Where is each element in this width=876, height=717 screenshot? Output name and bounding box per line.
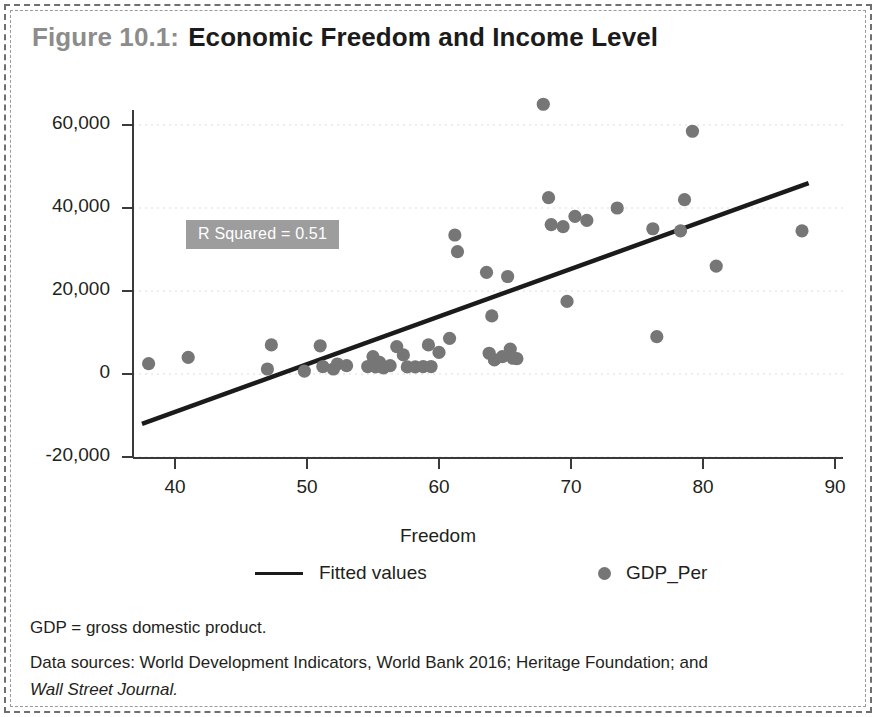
- legend-item-fitted-values: Fitted values: [255, 562, 427, 584]
- page-title: Figure 10.1:Economic Freedom and Income …: [32, 22, 658, 53]
- scatter-point: [314, 339, 327, 352]
- scatter-point: [265, 338, 278, 351]
- r-squared-annotation: R Squared = 0.51: [186, 220, 339, 249]
- x-tick-label: 50: [277, 476, 337, 498]
- axis-ticks: [122, 125, 835, 469]
- y-tick-label: -20,000: [5, 444, 110, 466]
- gridlines: [133, 125, 843, 457]
- scatter-point: [678, 193, 691, 206]
- scatter-point: [424, 360, 437, 373]
- scatter-point: [710, 260, 723, 273]
- scatter-point: [674, 224, 687, 237]
- scatter-point: [556, 220, 569, 233]
- legend-label-fitted-values: Fitted values: [319, 562, 427, 584]
- scatter-point: [432, 346, 445, 359]
- scatter-point: [510, 352, 523, 365]
- scatter-point: [545, 218, 558, 231]
- figure-name: Economic Freedom and Income Level: [188, 22, 658, 52]
- scatter-point: [451, 245, 464, 258]
- x-tick-label: 80: [673, 476, 733, 498]
- scatter-point: [384, 359, 397, 372]
- x-tick-label: 60: [409, 476, 469, 498]
- legend-item-gdp-per: GDP_Per: [598, 562, 707, 584]
- y-tick-label: 0: [5, 361, 110, 383]
- scatter-point: [611, 201, 624, 214]
- scatter-chart: -20,000020,00040,00060,000 405060708090 …: [0, 70, 876, 540]
- scatter-point: [480, 266, 493, 279]
- scatter-point: [142, 357, 155, 370]
- scatter-point: [501, 270, 514, 283]
- x-tick-label: 40: [145, 476, 205, 498]
- scatter-point: [397, 348, 410, 361]
- scatter-point: [646, 222, 659, 235]
- scatter-point: [560, 295, 573, 308]
- scatter-point: [261, 362, 274, 375]
- note-gdp-definition: GDP = gross domestic product.: [30, 615, 820, 641]
- scatter-point: [580, 214, 593, 227]
- plot-canvas: [0, 70, 876, 540]
- scatter-point: [485, 309, 498, 322]
- x-tick-label: 90: [805, 476, 865, 498]
- scatter-point: [795, 224, 808, 237]
- scatter-point: [340, 359, 353, 372]
- chart-legend: Fitted values GDP_Per: [0, 560, 876, 594]
- scatter-point: [448, 228, 461, 241]
- axis-lines: [133, 110, 843, 458]
- dot-swatch-icon: [598, 567, 611, 580]
- figure-notes: GDP = gross domestic product. Data sourc…: [30, 615, 820, 712]
- y-tick-label: 20,000: [5, 278, 110, 300]
- figure-number: Figure 10.1:: [32, 22, 179, 52]
- scatter-point: [537, 98, 550, 111]
- scatter-point: [686, 125, 699, 138]
- scatter-point: [650, 330, 663, 343]
- note-data-sources: Data sources: World Development Indicato…: [30, 650, 820, 703]
- note-data-sources-text: Data sources: World Development Indicato…: [30, 653, 708, 672]
- y-tick-label: 40,000: [5, 195, 110, 217]
- scatter-point: [568, 210, 581, 223]
- note-journal-title: Wall Street Journal.: [30, 680, 178, 699]
- scatter-point: [443, 332, 456, 345]
- line-swatch-icon: [255, 572, 303, 575]
- legend-label-gdp-per: GDP_Per: [626, 562, 707, 584]
- scatter-point: [182, 351, 195, 364]
- figure-page: Figure 10.1:Economic Freedom and Income …: [0, 0, 876, 717]
- scatter-point: [542, 191, 555, 204]
- x-axis-title: Freedom: [0, 525, 876, 547]
- y-tick-label: 60,000: [5, 112, 110, 134]
- scatter-point: [298, 364, 311, 377]
- x-tick-label: 70: [541, 476, 601, 498]
